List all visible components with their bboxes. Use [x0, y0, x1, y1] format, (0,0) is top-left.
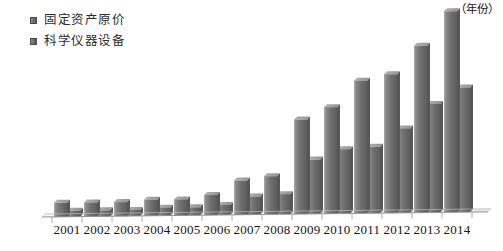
bar	[354, 78, 370, 214]
chart-legend: 固定资产原价 科学仪器设备	[30, 10, 126, 52]
bar	[114, 199, 130, 216]
bar	[414, 43, 430, 213]
bar	[294, 117, 310, 214]
x-axis-unit-label: （年份）	[455, 0, 499, 16]
bar	[444, 8, 460, 212]
bar	[384, 71, 400, 213]
bar	[324, 104, 340, 214]
x-axis-labels: 2001200220032004200520062007200820092010…	[0, 222, 503, 246]
legend-swatch-icon	[30, 38, 37, 45]
bar	[234, 178, 250, 215]
bar	[54, 200, 70, 217]
legend-swatch-icon	[30, 17, 37, 24]
legend-item-0: 固定资产原价	[30, 10, 126, 31]
bar	[204, 192, 220, 215]
legend-item-label: 固定资产原价	[44, 14, 126, 27]
bar-chart: 固定资产原价 科学仪器设备	[0, 0, 503, 251]
x-axis-tick-label: 2014	[437, 222, 477, 238]
bar	[84, 199, 100, 216]
legend-item-1: 科学仪器设备	[30, 31, 126, 52]
bar	[264, 173, 280, 214]
legend-item-label: 科学仪器设备	[44, 35, 126, 48]
